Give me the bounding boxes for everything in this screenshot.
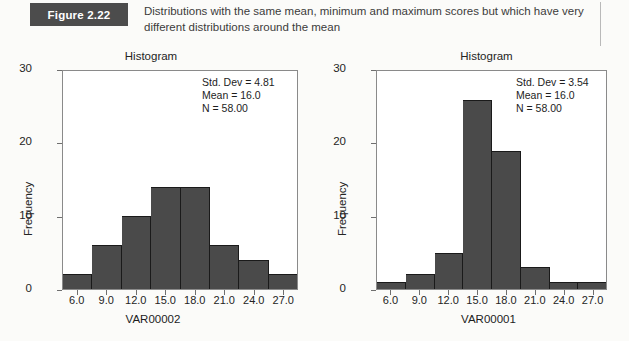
histogram-panel-right: Histogram Frequency 0102030 6.09.012.015… bbox=[316, 46, 629, 341]
y-tick-label: 10 bbox=[322, 209, 346, 221]
x-tick-label: 6.0 bbox=[375, 294, 405, 306]
y-tick-mark bbox=[57, 143, 62, 144]
x-tick-mark bbox=[77, 290, 78, 295]
x-tick-mark bbox=[195, 290, 196, 295]
x-tick-mark bbox=[419, 290, 420, 295]
x-tick-mark bbox=[283, 290, 284, 295]
x-tick-mark bbox=[106, 290, 107, 295]
x-tick-label: 27.0 bbox=[578, 294, 608, 306]
x-tick-label: 24.0 bbox=[549, 294, 579, 306]
x-tick-mark bbox=[390, 290, 391, 295]
bar bbox=[269, 274, 297, 289]
figure-number-badge: Figure 2.22 bbox=[30, 3, 128, 26]
x-tick-label: 12.0 bbox=[121, 294, 151, 306]
x-tick-label: 15.0 bbox=[462, 294, 492, 306]
y-tick-mark bbox=[371, 143, 376, 144]
bar bbox=[63, 274, 92, 289]
y-tick-label: 0 bbox=[8, 282, 32, 294]
x-tick-mark bbox=[593, 290, 594, 295]
stat-mean-right: Mean = 16.0 bbox=[516, 89, 589, 102]
bar bbox=[435, 253, 464, 289]
y-tick-label: 20 bbox=[322, 135, 346, 147]
x-axis-label-right: VAR00001 bbox=[332, 313, 629, 325]
bar bbox=[239, 260, 268, 289]
stat-mean-left: Mean = 16.0 bbox=[202, 89, 275, 102]
bar bbox=[151, 187, 180, 289]
x-axis-label-left: VAR00002 bbox=[0, 313, 308, 325]
x-tick-mark bbox=[165, 290, 166, 295]
x-tick-label: 18.0 bbox=[491, 294, 521, 306]
bar bbox=[521, 267, 550, 289]
x-tick-mark bbox=[224, 290, 225, 295]
histogram-panel-left: Histogram Frequency 0102030 6.09.012.015… bbox=[6, 46, 316, 341]
y-tick-mark bbox=[371, 217, 376, 218]
y-tick-mark bbox=[57, 217, 62, 218]
y-tick-label: 10 bbox=[8, 209, 32, 221]
x-tick-label: 24.0 bbox=[239, 294, 269, 306]
y-tick-mark bbox=[57, 70, 62, 71]
bar bbox=[122, 216, 151, 289]
y-tick-label: 30 bbox=[8, 62, 32, 74]
figure-header: Figure 2.22 Distributions with the same … bbox=[0, 0, 629, 46]
x-tick-label: 15.0 bbox=[150, 294, 180, 306]
caption-divider bbox=[600, 2, 601, 46]
stats-box-left: Std. Dev = 4.81 Mean = 16.0 N = 58.00 bbox=[202, 76, 275, 115]
chart-title-right: Histogram bbox=[330, 50, 629, 62]
stat-n-left: N = 58.00 bbox=[202, 102, 275, 115]
x-tick-mark bbox=[448, 290, 449, 295]
x-tick-label: 18.0 bbox=[180, 294, 210, 306]
x-tick-label: 6.0 bbox=[62, 294, 92, 306]
x-tick-label: 21.0 bbox=[209, 294, 239, 306]
y-tick-label: 0 bbox=[322, 282, 346, 294]
x-tick-label: 27.0 bbox=[268, 294, 298, 306]
figure-caption: Distributions with the same mean, minimu… bbox=[144, 4, 592, 35]
x-tick-mark bbox=[506, 290, 507, 295]
x-tick-label: 9.0 bbox=[91, 294, 121, 306]
x-tick-label: 21.0 bbox=[520, 294, 550, 306]
x-tick-mark bbox=[136, 290, 137, 295]
x-tick-label: 9.0 bbox=[404, 294, 434, 306]
bar bbox=[377, 282, 406, 289]
y-tick-mark bbox=[371, 70, 376, 71]
bar bbox=[550, 282, 579, 289]
stat-n-right: N = 58.00 bbox=[516, 102, 589, 115]
chart-title-left: Histogram bbox=[0, 50, 306, 62]
stat-std-dev-left: Std. Dev = 4.81 bbox=[202, 76, 275, 89]
bar bbox=[463, 100, 492, 289]
bar bbox=[181, 187, 210, 289]
y-tick-label: 20 bbox=[8, 135, 32, 147]
x-tick-mark bbox=[254, 290, 255, 295]
bar bbox=[492, 151, 521, 289]
y-tick-mark bbox=[57, 290, 62, 291]
x-tick-mark bbox=[564, 290, 565, 295]
x-tick-label: 12.0 bbox=[433, 294, 463, 306]
y-tick-mark bbox=[371, 290, 376, 291]
bar bbox=[92, 245, 121, 289]
stats-box-right: Std. Dev = 3.54 Mean = 16.0 N = 58.00 bbox=[516, 76, 589, 115]
x-tick-mark bbox=[477, 290, 478, 295]
bar bbox=[578, 282, 606, 289]
stat-std-dev-right: Std. Dev = 3.54 bbox=[516, 76, 589, 89]
y-tick-label: 30 bbox=[322, 62, 346, 74]
bar bbox=[406, 274, 435, 289]
bar bbox=[210, 245, 239, 289]
x-tick-mark bbox=[535, 290, 536, 295]
